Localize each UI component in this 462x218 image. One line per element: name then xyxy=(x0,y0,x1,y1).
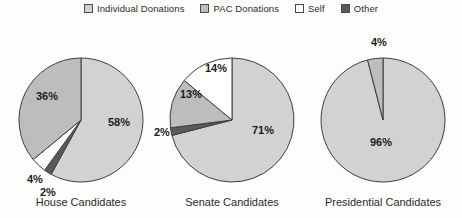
slice-value-label: 4% xyxy=(371,36,387,48)
chart-caption: Presidential Candidates xyxy=(325,196,442,208)
slice-value-label: 14% xyxy=(205,62,227,74)
chart-legend: Individual DonationsPAC DonationsSelfOth… xyxy=(0,3,462,14)
legend-label-pac: PAC Donations xyxy=(213,3,279,14)
slice-value-label: 36% xyxy=(36,90,58,102)
legend-label-self: Self xyxy=(308,3,325,14)
legend-item-individual: Individual Donations xyxy=(84,3,185,14)
slice-value-label: 96% xyxy=(370,136,392,148)
legend-item-pac: PAC Donations xyxy=(200,3,279,14)
legend-item-self: Self xyxy=(295,3,325,14)
slice-value-label: 4% xyxy=(27,173,43,185)
legend-swatch-individual xyxy=(84,4,93,13)
slice-value-label: 71% xyxy=(252,124,274,136)
legend-item-other: Other xyxy=(341,3,378,14)
pie-charts-container: 58%2%4%36%71%2%13%14%96%4%House Candidat… xyxy=(0,24,462,218)
slice-value-label: 13% xyxy=(180,88,202,100)
pie-chart-senate-candidates: 71%2%13%14% xyxy=(154,58,294,182)
slice-value-label: 58% xyxy=(108,116,130,128)
legend-swatch-other xyxy=(341,4,350,13)
pie-charts-svg: 58%2%4%36%71%2%13%14%96%4%House Candidat… xyxy=(0,24,462,218)
chart-caption: Senate Candidates xyxy=(185,196,279,208)
legend-swatch-self xyxy=(295,4,304,13)
pie-chart-house-candidates: 58%2%4%36% xyxy=(19,58,143,198)
slice-value-label: 2% xyxy=(154,126,170,138)
legend-swatch-pac xyxy=(200,4,209,13)
pie-chart-presidential-candidates: 96%4% xyxy=(321,36,445,182)
pie-chart-figure: Individual DonationsPAC DonationsSelfOth… xyxy=(0,0,462,218)
legend-label-other: Other xyxy=(354,3,378,14)
legend-label-individual: Individual Donations xyxy=(97,3,185,14)
chart-caption: House Candidates xyxy=(36,196,127,208)
